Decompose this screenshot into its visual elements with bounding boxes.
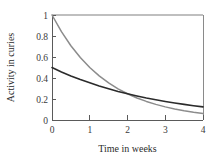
x-tick-label: 2 — [125, 125, 130, 135]
chart-canvas: 0 0.2 0.4 0.6 0.8 1 0 1 2 3 4 Time in we… — [0, 0, 215, 160]
y-tick-label: 1 — [43, 11, 48, 21]
x-axis-title: Time in weeks — [98, 143, 157, 154]
x-axis-ticks — [52, 115, 203, 120]
y-tick-label: 0.6 — [36, 53, 48, 63]
data-curve-fast-decay — [52, 15, 203, 113]
x-tick-labels: 0 1 2 3 4 — [50, 125, 206, 135]
chart-figure: 0 0.2 0.4 0.6 0.8 1 0 1 2 3 4 Time in we… — [0, 0, 215, 160]
y-tick-labels: 0 0.2 0.4 0.6 0.8 1 — [36, 11, 48, 126]
x-tick-label: 3 — [163, 125, 168, 135]
y-tick-label: 0.4 — [36, 74, 48, 84]
y-axis-title: Activity in curies — [5, 33, 16, 103]
x-tick-label: 1 — [87, 125, 92, 135]
x-tick-label: 0 — [50, 125, 55, 135]
y-tick-label: 0.2 — [36, 95, 48, 105]
y-tick-label: 0 — [43, 116, 48, 126]
x-tick-label: 4 — [201, 125, 206, 135]
data-curve-slow-decay — [52, 68, 203, 107]
y-tick-label: 0.8 — [36, 32, 48, 42]
